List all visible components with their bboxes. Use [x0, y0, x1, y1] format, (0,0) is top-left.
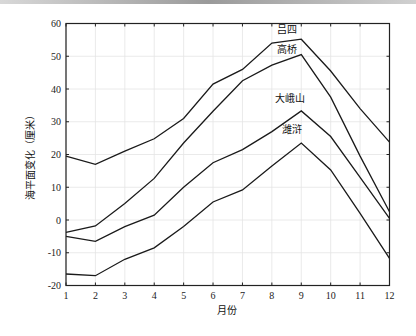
- y-tick-label: 30: [51, 116, 61, 127]
- y-tick-label: -20: [48, 280, 61, 291]
- y-tick-label: 0: [56, 215, 61, 226]
- x-tick-label: 5: [181, 290, 186, 301]
- y-tick-label: -10: [48, 247, 61, 258]
- series-label: 吕四: [277, 24, 297, 35]
- y-tick-label: 20: [51, 149, 61, 160]
- series-label: 大峨山: [275, 92, 305, 104]
- x-tick-label: 3: [122, 290, 127, 301]
- grid-lines: [66, 24, 390, 286]
- x-tick-label: 10: [326, 290, 336, 301]
- x-tick-label: 8: [269, 290, 274, 301]
- x-tick-label: 1: [64, 290, 69, 301]
- series-label: 高桥: [277, 43, 297, 55]
- series-line: [66, 55, 390, 233]
- y-tick-label: 60: [51, 18, 61, 29]
- series-label: 潍浒: [282, 123, 302, 135]
- y-tick-label: 10: [51, 182, 61, 193]
- x-tick-label: 12: [385, 290, 395, 301]
- series-line: [66, 143, 390, 276]
- series-line: [66, 39, 390, 164]
- x-tick-label: 7: [240, 290, 245, 301]
- series-line: [66, 111, 390, 241]
- line-chart: 123456789101112-20-100102030405060 吕四高桥大…: [0, 0, 416, 336]
- y-tick-label: 40: [51, 84, 61, 95]
- x-tick-label: 6: [211, 290, 216, 301]
- x-tick-label: 2: [93, 290, 98, 301]
- x-tick-label: 4: [152, 290, 157, 301]
- y-axis-title: 海平面变化（厘米）: [24, 110, 36, 200]
- x-axis-title: 月份: [217, 305, 237, 316]
- series-lines: [66, 39, 390, 276]
- y-tick-label: 50: [51, 51, 61, 62]
- x-tick-label: 11: [355, 290, 365, 301]
- x-tick-label: 9: [299, 290, 304, 301]
